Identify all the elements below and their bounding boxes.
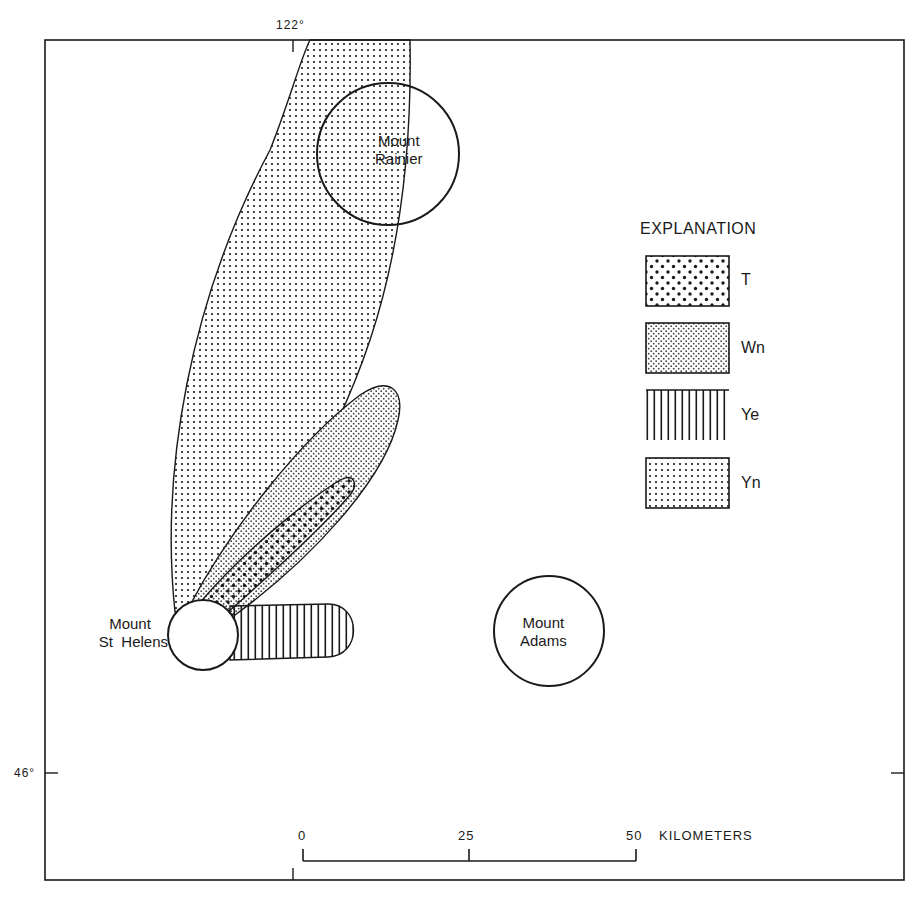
legend-label-wn: Wn [741, 339, 765, 357]
plume-ye [230, 604, 354, 660]
label-mount-st-helens-line2: St Helens [92, 633, 168, 651]
legend-label-ye: Ye [741, 406, 759, 424]
legend-swatch-t [646, 256, 729, 306]
mount-st-helens-circle [168, 600, 238, 670]
legend-swatches [646, 256, 729, 508]
legend-swatch-ye [646, 390, 729, 440]
legend-label-t: T [741, 271, 751, 289]
longitude-label: 122° [276, 18, 305, 32]
scale-tick-50: 50 [626, 828, 642, 843]
latitude-label: 46° [14, 766, 35, 780]
label-mount-st-helens-line1: Mount [92, 615, 168, 633]
map-frame [45, 40, 904, 880]
label-mount-rainier: Mount Rainier [375, 132, 423, 168]
map-canvas [0, 0, 922, 898]
legend-swatch-yn [646, 458, 729, 508]
label-mount-adams-line1: Mount [520, 614, 567, 632]
legend-swatch-wn [646, 323, 729, 373]
label-mount-rainier-line2: Rainier [375, 150, 423, 168]
legend-title: EXPLANATION [640, 220, 756, 238]
scale-bar [303, 849, 636, 861]
scale-tick-25: 25 [458, 828, 474, 843]
scale-unit: KILOMETERS [659, 828, 753, 843]
label-mount-rainier-line1: Mount [375, 132, 423, 150]
legend-label-yn: Yn [741, 474, 761, 492]
scale-tick-0: 0 [298, 828, 306, 843]
label-mount-adams: Mount Adams [520, 614, 567, 650]
label-mount-adams-line2: Adams [520, 632, 567, 650]
label-mount-st-helens: Mount St Helens [92, 615, 168, 651]
